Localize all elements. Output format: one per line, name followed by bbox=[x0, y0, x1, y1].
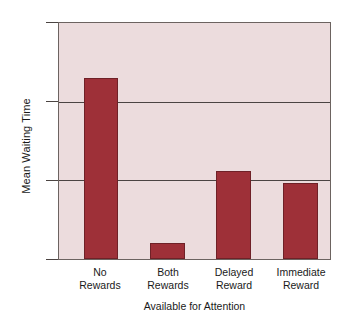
y-axis-title: Mean Waiting Time bbox=[20, 66, 32, 226]
x-tick-label-line1: No bbox=[62, 266, 138, 279]
x-tick-label-line1: Immediate bbox=[263, 266, 339, 279]
x-tick-label-line2: Rewards bbox=[62, 279, 138, 292]
y-tick-mark-15 bbox=[46, 22, 58, 23]
bar-chart-figure: Mean Waiting Time 15 10 5 0 No Rewards B… bbox=[0, 0, 346, 331]
x-tick-label-no-rewards: No Rewards bbox=[62, 266, 138, 291]
x-tick-label-both-rewards: Both Rewards bbox=[130, 266, 206, 291]
y-tick-mark-10 bbox=[46, 101, 58, 102]
x-tick-label-line1: Both bbox=[130, 266, 206, 279]
plot-area bbox=[58, 22, 331, 260]
bar-delayed-reward bbox=[216, 171, 251, 259]
x-tick-label-line2: Rewards bbox=[130, 279, 206, 292]
x-tick-label-immediate-reward: Immediate Reward bbox=[263, 266, 339, 291]
y-tick-mark-0 bbox=[46, 259, 58, 260]
x-tick-label-line2: Reward bbox=[196, 279, 272, 292]
bar-no-rewards bbox=[84, 78, 118, 259]
x-tick-label-delayed-reward: Delayed Reward bbox=[196, 266, 272, 291]
x-tick-label-line1: Delayed bbox=[196, 266, 272, 279]
bar-both-rewards bbox=[150, 243, 185, 259]
x-tick-label-line2: Reward bbox=[263, 279, 339, 292]
bar-immediate-reward bbox=[283, 183, 318, 259]
y-tick-mark-5 bbox=[46, 180, 58, 181]
x-axis-title: Available for Attention bbox=[58, 300, 331, 312]
